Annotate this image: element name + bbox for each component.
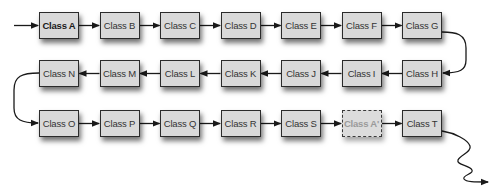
continuation-squiggle	[442, 131, 488, 182]
node-class-k[interactable]: Class K	[221, 60, 261, 87]
node-class-a-prime-ghost[interactable]: Class A'	[342, 110, 382, 137]
node-class-g[interactable]: Class G	[402, 12, 442, 39]
node-class-a[interactable]: Class A	[39, 12, 79, 39]
node-class-b[interactable]: Class B	[100, 12, 140, 39]
node-class-t[interactable]: Class T	[402, 110, 442, 137]
node-class-l[interactable]: Class L	[160, 60, 200, 87]
node-class-h[interactable]: Class H	[402, 60, 442, 87]
node-class-s[interactable]: Class S	[281, 110, 321, 137]
node-class-d[interactable]: Class D	[221, 12, 261, 39]
class-chain-diagram: Class A Class B Class C Class D Class E …	[0, 0, 502, 189]
node-class-p[interactable]: Class P	[100, 110, 140, 137]
node-class-e[interactable]: Class E	[281, 12, 321, 39]
wrap-arrow-n-to-o	[14, 73, 39, 123]
node-class-r[interactable]: Class R	[221, 110, 261, 137]
node-class-f[interactable]: Class F	[342, 12, 382, 39]
node-class-i[interactable]: Class I	[342, 60, 382, 87]
wrap-arrow-g-to-h	[442, 32, 466, 73]
node-class-m[interactable]: Class M	[100, 60, 140, 87]
node-class-j[interactable]: Class J	[281, 60, 321, 87]
node-class-q[interactable]: Class Q	[160, 110, 200, 137]
node-class-o[interactable]: Class O	[39, 110, 79, 137]
node-class-c[interactable]: Class C	[160, 12, 200, 39]
node-class-n[interactable]: Class N	[39, 60, 79, 87]
